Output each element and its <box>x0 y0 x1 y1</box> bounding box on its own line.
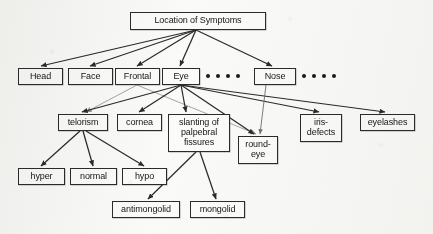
node-telorism-label: telorism <box>68 118 99 128</box>
node-hyper-label: hyper <box>30 172 52 182</box>
node-iris-defects[interactable]: iris-defects <box>300 114 342 142</box>
node-telorism[interactable]: telorism <box>58 114 108 131</box>
node-iris-defects-label: iris-defects <box>307 118 335 137</box>
ellipsis-dot <box>332 74 336 78</box>
edge-root-to-head <box>41 30 196 66</box>
edge-eye-to-slanting <box>181 85 186 112</box>
edge-root-to-nose <box>196 30 272 66</box>
edge-telorism-to-hypo <box>86 131 144 166</box>
edge-slanting-to-mongolid <box>200 152 216 199</box>
ellipsis-dot <box>226 74 230 78</box>
edge-telorism-to-normal <box>83 131 93 166</box>
node-slanting-of-palpebral-fissures[interactable]: slanting ofpalpebralfissures <box>168 114 230 152</box>
ellipsis-dot <box>216 74 220 78</box>
node-antimongolid-label: antimongolid <box>121 205 171 215</box>
node-eyelashes[interactable]: eyelashes <box>360 114 415 131</box>
node-cornea[interactable]: cornea <box>117 114 162 131</box>
edge-root-to-frontal <box>137 30 196 66</box>
ellipsis-dot <box>312 74 316 78</box>
edge-eye-to-eyelashes <box>181 85 385 112</box>
node-face[interactable]: Face <box>68 68 113 85</box>
edge-nose-to-roundeye <box>260 85 266 134</box>
ellipsis-after-eye <box>206 74 240 78</box>
node-hyper[interactable]: hyper <box>18 168 65 185</box>
node-head[interactable]: Head <box>18 68 63 85</box>
node-round-eye-label: round-eye <box>245 140 270 159</box>
node-head-label: Head <box>30 72 51 82</box>
node-eyelashes-label: eyelashes <box>368 118 408 128</box>
node-hypo-label: hypo <box>135 172 154 182</box>
node-normal[interactable]: normal <box>70 168 117 185</box>
node-face-label: Face <box>81 72 101 82</box>
ellipsis-after-nose <box>302 74 336 78</box>
node-mongolid[interactable]: mongolid <box>190 201 245 218</box>
node-eye[interactable]: Eye <box>162 68 200 85</box>
node-nose[interactable]: Nose <box>254 68 296 85</box>
node-mongolid-label: mongolid <box>200 205 236 215</box>
edge-telorism-to-hyper <box>41 131 80 166</box>
node-antimongolid[interactable]: antimongolid <box>112 201 180 218</box>
edge-root-to-face <box>90 30 196 66</box>
node-normal-label: normal <box>80 172 107 182</box>
node-root[interactable]: Location of Symptoms <box>130 12 266 30</box>
node-eye-label: Eye <box>173 72 188 82</box>
edge-eye-to-telorism <box>82 85 181 112</box>
ellipsis-dot <box>236 74 240 78</box>
node-root-label: Location of Symptoms <box>154 16 241 26</box>
node-hypo[interactable]: hypo <box>122 168 167 185</box>
node-round-eye[interactable]: round-eye <box>238 136 278 164</box>
node-frontal[interactable]: Frontal <box>115 68 160 85</box>
node-nose-label: Nose <box>265 72 286 82</box>
edge-eye-to-cornea <box>139 85 181 112</box>
ellipsis-dot <box>322 74 326 78</box>
node-cornea-label: cornea <box>126 118 153 128</box>
diagram-canvas: Location of Symptoms Head Face Frontal E… <box>0 0 433 234</box>
node-slanting-label: slanting ofpalpebralfissures <box>179 118 219 147</box>
ellipsis-dot <box>206 74 210 78</box>
ellipsis-dot <box>302 74 306 78</box>
node-frontal-label: Frontal <box>124 72 151 82</box>
